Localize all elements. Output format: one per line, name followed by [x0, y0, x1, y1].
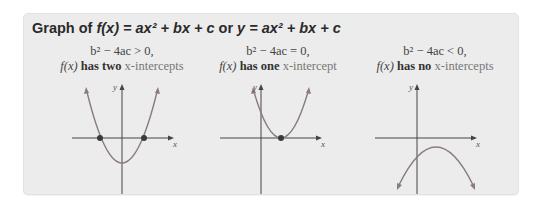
panel-two-intercepts: b² − 4ac > 0, f(x) has two x-intercepts — [42, 44, 202, 74]
x-intercept-label: x-intercepts — [125, 59, 184, 73]
has-label: has one — [237, 59, 283, 73]
fx-label: f(x) — [219, 59, 236, 73]
title-or: or — [215, 20, 238, 36]
x-axis-label: x — [475, 139, 480, 149]
graph-no-intercepts: x y — [373, 84, 485, 194]
curve-arrow-icon — [397, 183, 402, 190]
parabola-curve — [254, 92, 308, 138]
title-fx: f(x) — [96, 20, 119, 36]
description-text: f(x) has one x-intercept — [198, 59, 358, 74]
y-axis-label: y — [252, 84, 257, 92]
title-equation-1: = ax² + bx + c — [119, 20, 215, 36]
panel-no-intercepts: b² − 4ac < 0, f(x) has no x-intercepts — [355, 44, 515, 74]
x-axis-label: x — [320, 139, 325, 149]
condition-text: b² − 4ac = 0, — [198, 44, 358, 59]
curve-arrow-icon — [306, 87, 311, 94]
x-intercept-label: x-intercept — [283, 59, 337, 73]
box-title: Graph of f(x) = ax² + bx + c or y = ax² … — [32, 20, 341, 36]
curve-arrow-icon — [155, 87, 160, 94]
title-y: y — [237, 20, 245, 36]
condition-text: b² − 4ac < 0, — [355, 44, 515, 59]
condition-text: b² − 4ac > 0, — [42, 44, 202, 59]
x-axis-label: x — [172, 139, 177, 149]
y-axis-arrow-icon — [415, 84, 420, 90]
y-axis-label: y — [408, 84, 413, 92]
graph-two-intercepts: x y — [70, 84, 180, 194]
curve-arrow-icon — [470, 183, 475, 190]
description-text: f(x) has no x-intercepts — [355, 59, 515, 74]
has-label: has two — [78, 59, 125, 73]
title-prefix: Graph of — [32, 20, 96, 36]
panel-one-intercept: b² − 4ac = 0, f(x) has one x-intercept — [198, 44, 358, 74]
intercept-dot — [278, 135, 284, 141]
parabola-curve — [399, 147, 473, 185]
y-axis-label: y — [112, 84, 117, 92]
fx-label: f(x) — [60, 59, 77, 73]
intercept-dot — [97, 135, 103, 141]
fx-label: f(x) — [376, 59, 393, 73]
intercept-dot — [141, 135, 147, 141]
curve-arrow-icon — [84, 87, 89, 94]
x-intercept-label: x-intercepts — [435, 59, 494, 73]
description-text: f(x) has two x-intercepts — [42, 59, 202, 74]
graph-one-intercept: x y — [218, 84, 330, 194]
title-equation-2: = ax² + bx + c — [245, 20, 341, 36]
y-axis-arrow-icon — [120, 84, 125, 90]
has-label: has no — [394, 59, 435, 73]
y-axis-arrow-icon — [259, 84, 264, 90]
